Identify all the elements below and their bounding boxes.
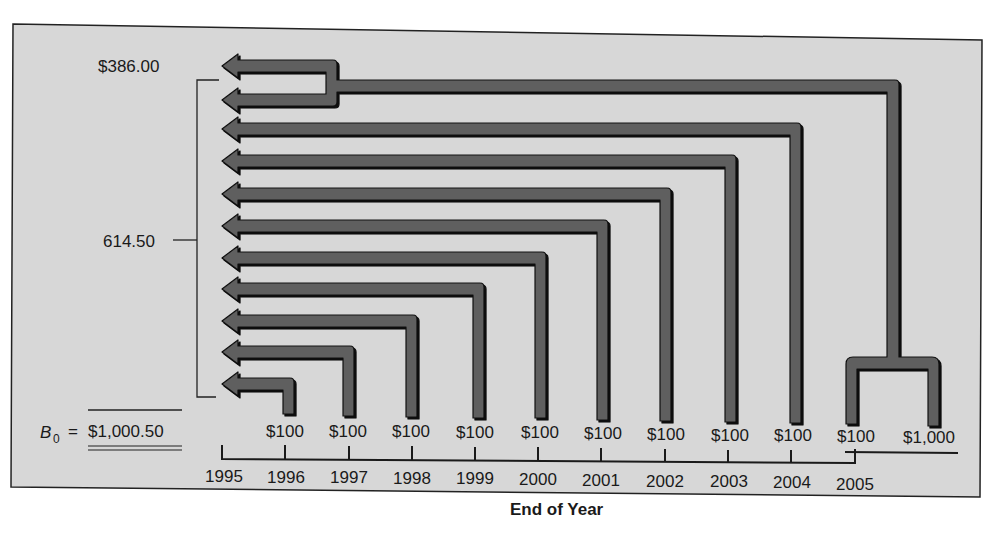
cash-flow-label: $100 — [456, 423, 494, 442]
cash-flow-label: $1,000 — [903, 428, 955, 447]
cash-flow-label: $100 — [837, 427, 875, 446]
year-label: 2000 — [519, 470, 557, 489]
cash-flow-label: $100 — [329, 422, 367, 441]
year-label: 1996 — [267, 468, 305, 487]
bond-value-equals: = — [68, 422, 78, 441]
bracket-value-label: 614.50 — [103, 232, 155, 251]
bond-valuation-timeline-diagram: $386.00 614.50 B 0 = $1,000.50 $100 $100… — [0, 0, 1006, 554]
bond-value: $1,000.50 — [88, 422, 164, 441]
year-label: 2002 — [646, 472, 684, 491]
cash-flow-label: $100 — [647, 425, 685, 444]
bond-value-subscript: 0 — [53, 432, 60, 446]
year-label: 2003 — [710, 472, 748, 491]
cash-flow-label: $100 — [266, 422, 304, 441]
year-label: 1999 — [456, 469, 494, 488]
axis-title: End of Year — [510, 500, 604, 519]
cash-flow-label: $100 — [774, 426, 812, 445]
cash-flow-label: $100 — [711, 426, 749, 445]
cash-flow-label: $100 — [521, 423, 559, 442]
top-value-label: $386.00 — [98, 57, 159, 76]
year-label: 2001 — [582, 471, 620, 490]
year-label: 2004 — [773, 473, 811, 492]
cash-flow-label: $100 — [584, 424, 622, 443]
year-label: 1998 — [393, 469, 431, 488]
bond-value-symbol: B — [40, 423, 51, 442]
year-label: 1997 — [330, 468, 368, 487]
year-label: 2005 — [836, 475, 874, 494]
cash-flow-label: $100 — [392, 422, 430, 441]
year-label: 1995 — [205, 467, 243, 486]
